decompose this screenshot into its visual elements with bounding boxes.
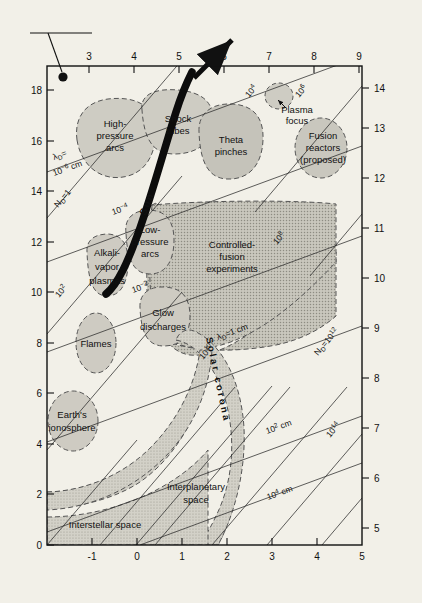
svg-text:focus: focus [286, 115, 309, 126]
y-tick-14: 14 [31, 186, 43, 197]
y-tick-4: 4 [36, 439, 42, 450]
label-theta-pinches: Thetapinches [215, 134, 248, 157]
svg-text:pressure: pressure [132, 236, 169, 247]
y2-tick-5: 5 [374, 523, 380, 534]
y2-tick-7: 7 [374, 423, 380, 434]
label-interstellar-space: Interstellar space [69, 519, 141, 530]
y-tick-2: 2 [36, 489, 42, 500]
label-shock-tubes: Shocktubes [165, 113, 192, 136]
svg-text:discharges: discharges [140, 321, 186, 332]
x-tick-1: 1 [179, 551, 185, 562]
svg-text:ionosphere: ionosphere [48, 422, 95, 433]
svg-text:Controlled-: Controlled- [209, 239, 255, 250]
svg-text:Low-: Low- [140, 224, 161, 235]
x2-tick-8: 8 [311, 51, 317, 62]
svg-text:fusion: fusion [219, 251, 244, 262]
y2-tick-6: 6 [374, 473, 380, 484]
x2-tick-5: 5 [176, 51, 182, 62]
y-tick-18: 18 [31, 85, 43, 96]
svg-text:Glow: Glow [152, 307, 174, 318]
y2-tick-13: 13 [374, 123, 386, 134]
svg-text:pinches: pinches [215, 146, 248, 157]
svg-text:Interplanetary: Interplanetary [167, 481, 225, 492]
y-tick-6: 6 [36, 388, 42, 399]
y2-tick-11: 11 [374, 223, 385, 234]
y-tick-0: 0 [36, 540, 42, 551]
x2-tick-6: 6 [221, 51, 227, 62]
y-tick-8: 8 [36, 338, 42, 349]
x-tick-5: 5 [359, 551, 365, 562]
x2-tick-7: 7 [266, 51, 272, 62]
svg-text:tubes: tubes [166, 125, 189, 136]
svg-text:space: space [183, 494, 208, 505]
svg-text:Plasma: Plasma [281, 104, 313, 115]
svg-text:arcs: arcs [106, 142, 124, 153]
x-tick-0: 0 [134, 551, 140, 562]
y-tick-10: 10 [31, 287, 43, 298]
x2-tick-4: 4 [131, 51, 137, 62]
y2-tick-9: 9 [374, 323, 380, 334]
svg-text:pressure: pressure [97, 130, 134, 141]
y2-tick-10: 10 [374, 273, 386, 284]
plasma-parameter-chart: -1 0 1 2 3 4 5 3 4 5 6 7 8 9 0 2 4 6 8 1… [0, 0, 422, 603]
svg-text:(proposed): (proposed) [300, 154, 346, 165]
svg-text:High-: High- [104, 118, 127, 129]
x-tick-4: 4 [314, 551, 320, 562]
svg-text:Alkali-: Alkali- [94, 247, 120, 258]
svg-text:arcs: arcs [141, 248, 159, 259]
x2-tick-9: 9 [356, 51, 362, 62]
y-tick-12: 12 [31, 237, 43, 248]
y2-tick-14: 14 [374, 83, 386, 94]
svg-text:Fusion: Fusion [309, 130, 338, 141]
svg-text:Earth's: Earth's [57, 409, 87, 420]
label-flames: Flames [80, 338, 111, 349]
svg-text:Shock: Shock [165, 113, 192, 124]
svg-text:vapor: vapor [95, 261, 119, 272]
svg-text:Theta: Theta [219, 134, 244, 145]
x-tick-3: 3 [269, 551, 275, 562]
x-tick-2: 2 [224, 551, 230, 562]
y2-tick-8: 8 [374, 373, 380, 384]
x-tick--1: -1 [88, 551, 97, 562]
y-tick-16: 16 [31, 136, 43, 147]
y2-tick-12: 12 [374, 173, 386, 184]
x2-tick-3: 3 [86, 51, 92, 62]
region-earths-ionosphere[interactable] [48, 391, 98, 451]
svg-text:plasmas: plasmas [89, 275, 125, 286]
svg-text:reactors: reactors [306, 142, 341, 153]
svg-text:experiments: experiments [206, 263, 258, 274]
